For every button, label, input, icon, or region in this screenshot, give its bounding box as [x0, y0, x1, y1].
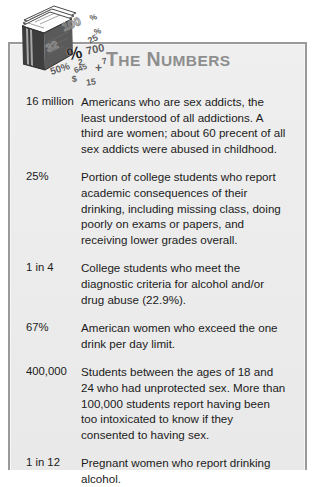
decorative-numeral: $ — [71, 75, 77, 85]
statistic-row: 67%American women who exceed the one dri… — [10, 320, 295, 351]
statistic-row: 1 in 12Pregnant women who report drinkin… — [10, 455, 295, 486]
statistic-value: 25% — [10, 169, 81, 185]
statistic-description: Americans who are sex addicts, the least… — [81, 94, 295, 156]
statistic-value: 400,000 — [10, 364, 81, 380]
statistic-value: 1 in 4 — [10, 260, 81, 276]
title-he: HE — [118, 52, 140, 69]
callout-header: 100%%2532%7002750%645+$15 THE NUMBERS — [10, 2, 309, 78]
statistic-value: 1 in 12 — [10, 455, 81, 471]
title-umbers: UMBERS — [161, 52, 231, 69]
statistic-description: American women who exceed the one drink … — [81, 320, 295, 351]
statistic-description: College students who meet the diagnostic… — [81, 260, 295, 307]
statistic-row: 25%Portion of college students who repor… — [10, 169, 295, 247]
decorative-numeral: 15 — [85, 77, 96, 87]
decorative-numeral: % — [89, 13, 98, 23]
statistic-description: Portion of college students who report a… — [81, 169, 295, 247]
statistics-list: 16 millionAmericans who are sex addicts,… — [10, 94, 305, 487]
title-letter-n: N — [146, 48, 160, 70]
statistic-value: 16 million — [10, 94, 81, 110]
decorative-numeral: 700 — [85, 42, 105, 57]
decorative-numeral: + — [95, 62, 102, 74]
statistic-row: 400,000Students between the ages of 18 a… — [10, 364, 295, 442]
statistic-description: Students between the ages of 18 and 24 w… — [81, 364, 295, 442]
statistic-row: 1 in 4College students who meet the diag… — [10, 260, 295, 307]
title-letter-t: T — [106, 48, 118, 70]
the-numbers-callout-panel: 100%%2532%7002750%645+$15 THE NUMBERS 16… — [8, 42, 307, 470]
page-title: THE NUMBERS — [106, 50, 231, 70]
statistic-row: 16 millionAmericans who are sex addicts,… — [10, 94, 295, 156]
statistic-description: Pregnant women who report drinking alcoh… — [81, 455, 295, 486]
statistic-value: 67% — [10, 320, 81, 336]
